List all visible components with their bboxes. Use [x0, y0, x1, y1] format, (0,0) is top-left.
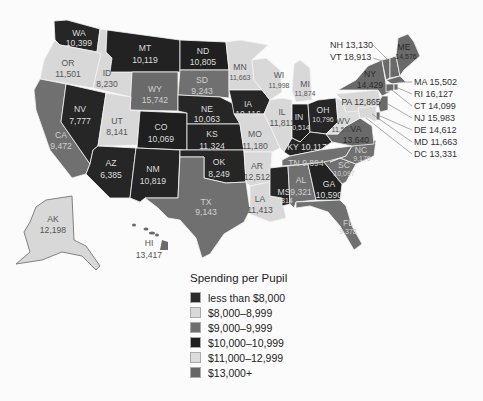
label-tx: TX [201, 197, 212, 207]
label-wy: WY [148, 84, 162, 94]
svg-text:8,230: 8,230 [96, 79, 118, 89]
svg-text:11,501: 11,501 [55, 69, 81, 79]
state-ri [394, 84, 398, 90]
label-az: AZ [106, 158, 117, 168]
label-al: AL [296, 175, 307, 185]
svg-text:11,324: 11,324 [199, 141, 225, 151]
label-ca: CA [55, 130, 67, 140]
label-ny: NY [364, 69, 376, 79]
label-mi: MI [300, 79, 310, 89]
svg-text:11,413: 11,413 [247, 205, 273, 215]
legend-item: $11,000–12,999 [190, 350, 287, 365]
svg-text:10,069: 10,069 [148, 134, 175, 144]
legend-item: $10,000–10,999 [190, 335, 287, 350]
svg-text:10,063: 10,063 [194, 114, 221, 124]
label-mn: MN [233, 62, 246, 72]
label-pa: PA 12,865 [341, 97, 380, 107]
svg-text:9,176: 9,176 [353, 155, 371, 162]
svg-text:10,119: 10,119 [132, 55, 158, 65]
svg-text:8,249: 8,249 [208, 169, 230, 179]
svg-text:11,998: 11,998 [269, 82, 290, 89]
svg-text:12,512: 12,512 [244, 172, 271, 182]
svg-text:9,378: 9,378 [339, 228, 357, 235]
svg-text:11,180: 11,180 [242, 141, 268, 151]
svg-text:14,429: 14,429 [357, 80, 384, 90]
label-ky: KY 10,117 [287, 142, 327, 152]
callout-ri: RI 16,127 [414, 89, 453, 99]
label-wi: WI [274, 70, 285, 80]
svg-text:10,097: 10,097 [333, 170, 355, 177]
label-tn: TN 9,894 [288, 158, 324, 168]
callout-ma: MA 15,502 [414, 77, 457, 87]
svg-text:10,819: 10,819 [140, 176, 167, 186]
callout-ct: CT 14,099 [414, 101, 456, 111]
legend-swatch-icon [190, 307, 201, 318]
callout-nj: NJ 15,983 [414, 113, 455, 123]
label-hi: HI [145, 238, 154, 248]
svg-text:14,576: 14,576 [395, 53, 417, 60]
svg-text:9,243: 9,243 [191, 86, 213, 96]
label-ks: KS [206, 129, 218, 139]
label-nc: NC [355, 145, 367, 155]
svg-text:7,814: 7,814 [275, 197, 293, 204]
legend-title: Spending per Pupil [190, 272, 287, 284]
callout-md: MD 11,663 [414, 137, 457, 147]
legend-swatch-icon [190, 337, 201, 348]
legend-item: $8,000–8,999 [190, 305, 287, 320]
label-il: IL [278, 107, 285, 117]
svg-text:13,640: 13,640 [343, 135, 370, 145]
svg-text:9,472: 9,472 [50, 141, 72, 151]
label-nm: NM [146, 164, 159, 174]
label-fl: FL [343, 218, 353, 228]
label-or: OR [62, 58, 75, 68]
svg-text:9,143: 9,143 [195, 207, 217, 217]
label-in: IN [295, 112, 304, 122]
legend-item: less than $8,000 [190, 290, 287, 305]
map-legend: Spending per Pupil less than $8,000 $8,0… [190, 272, 287, 380]
label-wa: WA [72, 28, 86, 38]
label-ga: GA [323, 179, 336, 189]
label-ms: MS [278, 187, 291, 197]
svg-text:10,116: 10,116 [235, 109, 261, 119]
svg-text:13,417: 13,417 [136, 250, 163, 260]
callout-nh: NH 13,130 [330, 40, 373, 50]
callout-dc: DC 13,331 [414, 149, 457, 159]
svg-text:10,805: 10,805 [190, 57, 217, 67]
svg-text:12,198: 12,198 [40, 225, 67, 235]
label-nd: ND [197, 46, 209, 56]
svg-text:15,742: 15,742 [142, 95, 169, 105]
label-ne: NE [201, 104, 213, 114]
legend-swatch-icon [190, 322, 201, 333]
state-nm [130, 148, 180, 202]
label-mo: MO [248, 129, 262, 139]
svg-text:8,141: 8,141 [106, 127, 128, 137]
label-ok: OK [213, 157, 226, 167]
callout-de: DE 14,612 [414, 125, 457, 135]
legend-swatch-icon [190, 352, 201, 363]
label-mt: MT [139, 43, 152, 53]
label-oh: OH [317, 105, 330, 115]
label-nv: NV [74, 104, 86, 114]
legend-item: $9,000–9,999 [190, 320, 287, 335]
legend-swatch-icon [190, 367, 201, 378]
label-me: ME [398, 42, 411, 52]
label-ia: IA [244, 99, 252, 109]
svg-text:11,537: 11,537 [332, 126, 353, 133]
svg-text:10,590: 10,590 [316, 190, 343, 200]
callout-vt: VT 18,913 [330, 52, 371, 62]
svg-text:11,811: 11,811 [269, 118, 294, 128]
svg-text:10,796: 10,796 [312, 116, 334, 123]
svg-text:6,385: 6,385 [100, 170, 122, 180]
label-id: ID [103, 68, 112, 78]
svg-text:11,874: 11,874 [295, 90, 316, 97]
label-sc: SC [338, 160, 350, 170]
label-la: LA [255, 194, 266, 204]
label-co: CO [155, 122, 168, 132]
label-ak: AK [47, 214, 59, 224]
label-ar: AR [251, 161, 263, 171]
svg-text:9,321: 9,321 [290, 187, 312, 197]
svg-text:11,663: 11,663 [230, 74, 251, 81]
legend-item: $13,000+ [190, 365, 287, 380]
legend-swatch-icon [190, 292, 201, 303]
svg-text:10,399: 10,399 [66, 38, 93, 48]
